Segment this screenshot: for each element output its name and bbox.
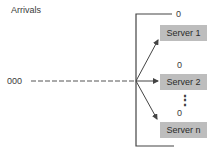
- server-2-queue: 0: [177, 60, 182, 70]
- server-1-queue: 0: [176, 9, 181, 19]
- server-n-queue: 0: [177, 108, 182, 118]
- arrow-to-server-n: [136, 81, 157, 119]
- arrival-queue-label: 000: [7, 76, 22, 86]
- server-1-box: Server 1: [160, 25, 207, 41]
- arrow-to-server-1: [136, 40, 158, 81]
- server-2-label: Server 2: [166, 77, 200, 87]
- server-n-box: Server n: [160, 122, 207, 138]
- ellipsis-dots: ⋮: [178, 93, 192, 107]
- server-2-box: Server 2: [160, 74, 207, 90]
- server-1-label: Server 1: [166, 28, 200, 38]
- server-n-label: Server n: [166, 125, 200, 135]
- arrivals-label: Arrivals: [11, 5, 41, 15]
